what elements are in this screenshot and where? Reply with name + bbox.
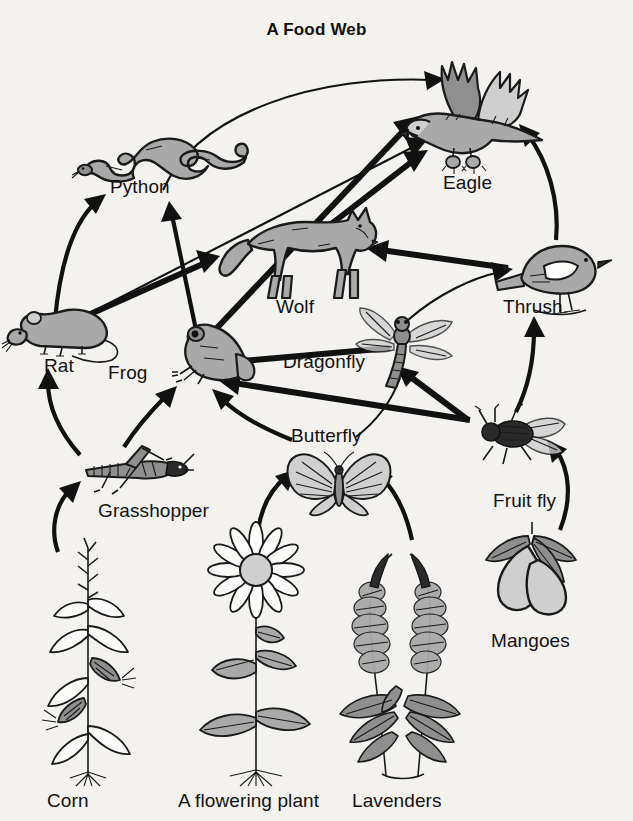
link-thrush-wolf — [381, 250, 508, 268]
label-rat: Rat — [44, 355, 74, 377]
label-mangoes: Mangoes — [491, 630, 570, 652]
wolf-icon — [218, 200, 388, 305]
butterfly-icon — [282, 450, 397, 520]
eagle-icon — [396, 58, 561, 180]
organism-fruitfly[interactable] — [473, 404, 573, 476]
link-butterfly-frog — [222, 399, 292, 440]
label-lavenders: Lavenders — [352, 790, 442, 812]
grasshopper-icon — [80, 444, 195, 496]
daisy-plant-icon — [196, 524, 316, 786]
mangoes-icon — [476, 520, 591, 630]
label-dragonfly: Dragonfly — [283, 351, 365, 373]
organism-lavenders[interactable] — [336, 546, 466, 784]
organism-frog[interactable] — [174, 318, 264, 390]
organism-flowering-plant[interactable] — [196, 524, 316, 786]
label-wolf: Wolf — [276, 296, 314, 318]
organism-corn[interactable] — [36, 538, 146, 786]
organism-wolf[interactable] — [218, 200, 388, 305]
label-thrush: Thrush — [503, 296, 563, 318]
organism-dragonfly[interactable] — [352, 300, 467, 395]
label-flowering-plant: A flowering plant — [178, 790, 319, 812]
fly-icon — [473, 404, 573, 476]
link-fruitfly-thrush — [516, 330, 534, 412]
organism-butterfly[interactable] — [282, 450, 397, 520]
link-grasshopper-rat — [48, 382, 80, 455]
label-fruitfly: Fruit fly — [493, 490, 556, 512]
link-frog-python — [172, 215, 196, 330]
food-web-diagram: A Food Web — [0, 0, 633, 821]
label-grasshopper: Grasshopper — [98, 500, 209, 522]
organism-eagle[interactable] — [396, 58, 561, 180]
label-python: Python — [110, 176, 170, 198]
label-butterfly: Butterfly — [291, 425, 362, 447]
organism-grasshopper[interactable] — [80, 444, 195, 496]
label-frog: Frog — [108, 362, 147, 384]
organism-mangoes[interactable] — [476, 520, 591, 630]
link-grasshopper-frog — [124, 396, 166, 447]
label-corn: Corn — [47, 790, 89, 812]
label-eagle: Eagle — [443, 172, 492, 194]
frog-icon — [174, 318, 264, 390]
lavender-plant-icon — [336, 546, 466, 784]
dragonfly-icon — [352, 300, 467, 395]
corn-plant-icon — [36, 538, 146, 786]
page-title: A Food Web — [0, 20, 633, 40]
